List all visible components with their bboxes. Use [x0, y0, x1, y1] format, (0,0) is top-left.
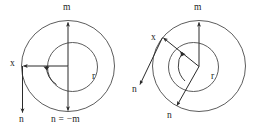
right-vector-n-bottom	[177, 67, 199, 106]
left-label-n: n	[19, 115, 24, 125]
right-inner-circle	[169, 43, 219, 92]
diagram-canvas	[0, 0, 256, 130]
right-label-n-bottom: n	[167, 111, 172, 121]
left-angle-arc-arrowhead	[43, 66, 49, 70]
left-label-m: m	[63, 3, 71, 13]
right-angle-arc-arrowhead	[180, 51, 185, 56]
left-panel-group	[22, 21, 115, 113]
left-label-n-equals-minus-m: n = −m	[51, 115, 80, 125]
figure-root: m x n r n = −m m x n n r	[0, 0, 256, 130]
left-label-r: r	[92, 72, 95, 82]
right-label-x: x	[151, 33, 156, 43]
right-angle-arc	[178, 53, 185, 82]
right-label-r: r	[211, 72, 214, 82]
left-inner-circle	[48, 43, 98, 92]
right-label-m: m	[194, 3, 202, 13]
right-label-n-left: n	[132, 85, 137, 95]
left-label-x: x	[10, 59, 15, 69]
right-vector-n-left	[140, 38, 163, 85]
